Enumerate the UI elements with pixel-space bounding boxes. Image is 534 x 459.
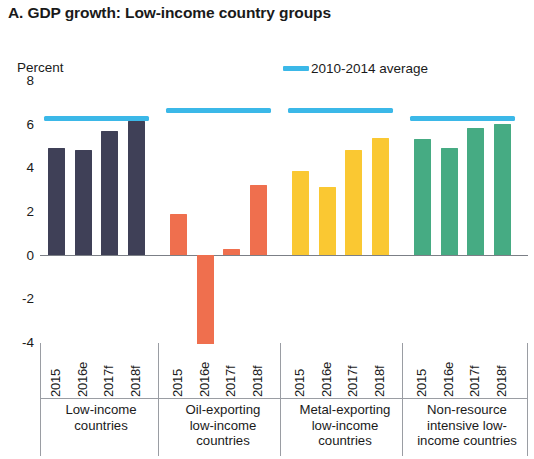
- bar-group: [284, 80, 406, 342]
- average-line: [44, 116, 149, 121]
- bar: [75, 150, 92, 255]
- bar: [292, 171, 309, 255]
- year-band-separator: [158, 343, 159, 398]
- bar-group: [406, 80, 528, 342]
- x-axis-year-label: 2016e: [319, 362, 334, 397]
- y-axis-unit-label: Percent: [17, 60, 64, 75]
- group-name-line: Low-income: [40, 402, 162, 418]
- group-name-label: Non-resourceintensive low-income countri…: [406, 402, 528, 449]
- group-name-line: Non-resource: [406, 402, 528, 418]
- x-axis-year-label: 2018f: [250, 365, 265, 397]
- year-band-separator: [280, 343, 281, 398]
- group-name-line: countries: [284, 433, 406, 449]
- legend-label: 2010-2014 average: [311, 61, 428, 76]
- chart-title: A. GDP growth: Low-income country groups: [8, 4, 331, 22]
- bar: [170, 214, 187, 254]
- chart-figure: A. GDP growth: Low-income country groups…: [0, 0, 534, 459]
- y-axis-tick-label: -4: [22, 335, 34, 350]
- group-name-line: low-income: [162, 418, 284, 434]
- bar: [128, 121, 145, 254]
- y-axis-tick-label: 6: [26, 116, 34, 131]
- group-name-line: countries: [162, 433, 284, 449]
- x-axis-year-label: 2018f: [372, 365, 387, 397]
- group-name-label: Low-incomecountries: [40, 402, 162, 433]
- bar: [441, 148, 458, 255]
- y-axis-tick-label: -2: [22, 291, 34, 306]
- group-band-separator: [158, 398, 159, 456]
- bar: [494, 124, 511, 255]
- bar: [48, 148, 65, 255]
- x-axis-year-label: 2018f: [128, 365, 143, 397]
- year-band-separator: [402, 343, 403, 398]
- x-axis-year-label: 2015: [48, 369, 63, 397]
- x-axis-year-label: 2015: [414, 369, 429, 397]
- y-axis-tick-label: 0: [26, 247, 34, 262]
- bar: [223, 249, 240, 254]
- bar-group: [162, 80, 284, 342]
- bar: [197, 255, 214, 345]
- x-axis-year-label: 2015: [170, 369, 185, 397]
- x-axis-year-label: 2017f: [101, 365, 116, 397]
- group-band-separator: [527, 398, 528, 456]
- bar: [467, 128, 484, 255]
- group-band-separator: [280, 398, 281, 456]
- group-name-line: countries: [40, 418, 162, 434]
- chart-legend: 2010-2014 average: [283, 61, 428, 76]
- bar: [319, 187, 336, 255]
- bar: [414, 139, 431, 255]
- x-axis-year-label: 2017f: [345, 365, 360, 397]
- bar: [101, 131, 118, 254]
- x-axis-year-labels: 20152016e2017f2018f20152016e2017f2018f20…: [40, 343, 528, 398]
- x-axis-year-label: 2018f: [494, 365, 509, 397]
- group-name-line: Metal-exporting: [284, 402, 406, 418]
- plot-area: 86420-2-4: [40, 80, 528, 342]
- x-axis-year-label: 2016e: [75, 362, 90, 397]
- average-line: [410, 116, 515, 121]
- group-band-separator: [402, 398, 403, 456]
- bar: [345, 150, 362, 255]
- group-name-label: Oil-exportinglow-incomecountries: [162, 402, 284, 449]
- group-name-line: intensive low-: [406, 418, 528, 434]
- x-axis-year-label: 2017f: [223, 365, 238, 397]
- x-axis-year-label: 2015: [292, 369, 307, 397]
- group-name-line: Oil-exporting: [162, 402, 284, 418]
- x-axis-year-label: 2017f: [467, 365, 482, 397]
- y-axis-tick-label: 4: [26, 160, 34, 175]
- x-axis-year-label: 2016e: [441, 362, 456, 397]
- group-name-line: low-income: [284, 418, 406, 434]
- group-name-label: Metal-exportinglow-incomecountries: [284, 402, 406, 449]
- x-axis-year-label: 2016e: [197, 362, 212, 397]
- bar-group: [40, 80, 162, 342]
- legend-line-swatch: [283, 66, 309, 71]
- bar: [372, 138, 389, 255]
- bar: [250, 185, 267, 255]
- y-axis-tick-label: 8: [26, 73, 34, 88]
- year-band-separator: [40, 343, 41, 398]
- x-axis-group-labels: Low-incomecountriesOil-exportinglow-inco…: [40, 398, 528, 456]
- group-name-line: income countries: [406, 433, 528, 449]
- group-band-top-rule: [40, 398, 528, 399]
- average-line: [288, 108, 393, 113]
- y-axis-tick-label: 2: [26, 204, 34, 219]
- average-line: [166, 108, 271, 113]
- year-band-separator: [527, 343, 528, 398]
